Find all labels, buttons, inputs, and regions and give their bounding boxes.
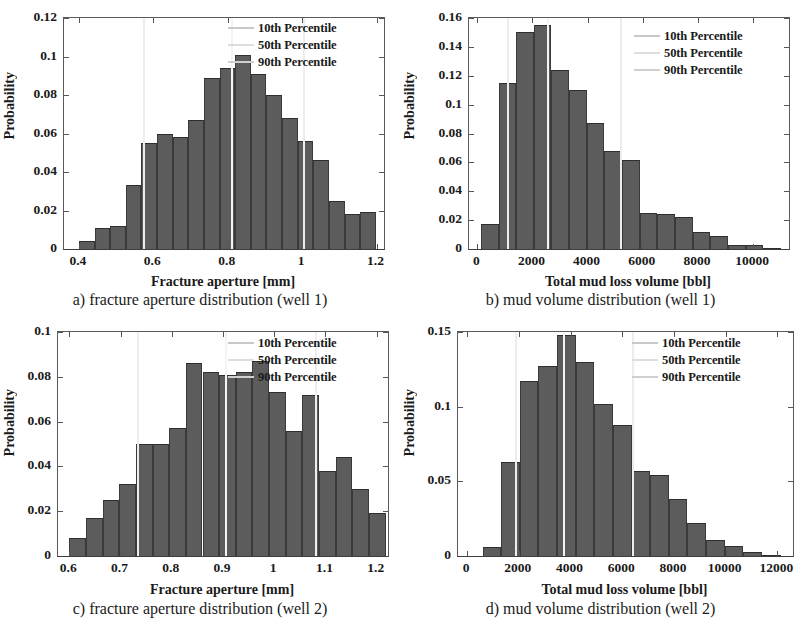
x-tick-label: 10000: [708, 560, 742, 576]
histogram-bar: [743, 552, 762, 556]
legend-line-icon: [632, 342, 658, 344]
histogram-bar: [219, 375, 236, 556]
y-tick-mark: [469, 18, 474, 19]
y-tick-label: 0.1: [0, 323, 51, 339]
histogram-bar: [352, 489, 369, 556]
histogram-bar: [360, 212, 376, 249]
histogram-bar: [622, 160, 640, 250]
panel-a-plot-area: [63, 17, 385, 250]
histogram-bar: [369, 513, 386, 556]
x-tick-mark-top: [121, 332, 122, 337]
x-tick-mark: [571, 551, 572, 556]
x-tick-mark: [753, 244, 754, 249]
x-tick-mark-top: [79, 18, 80, 23]
legend-label: 90th Percentile: [664, 63, 742, 78]
histogram-bar: [110, 226, 126, 249]
panel-a-caption: a) fracture aperture distribution (well …: [0, 291, 400, 309]
legend-line-icon: [634, 35, 660, 37]
percentile-line-overlay-10th: [507, 18, 509, 249]
y-tick-label: 0.08: [400, 125, 462, 141]
x-tick-mark: [377, 551, 378, 556]
y-tick-label: 0: [0, 547, 51, 563]
x-tick-mark: [325, 551, 326, 556]
figure-grid: Probability 00.020.040.060.080.10.12 0.4…: [0, 0, 801, 626]
y-tick-mark: [58, 556, 63, 557]
histogram-bar: [252, 361, 269, 556]
x-tick-mark: [121, 551, 122, 556]
x-tick-label: 2000: [518, 253, 545, 269]
y-tick-mark-right: [379, 249, 384, 250]
x-tick-mark-top: [519, 332, 520, 337]
x-tick-mark: [674, 551, 675, 556]
legend-label: 10th Percentile: [258, 336, 336, 351]
legend-item: 50th Percentile: [228, 352, 336, 368]
legend-label: 90th Percentile: [662, 370, 740, 385]
histogram-bar: [266, 95, 282, 249]
x-tick-label: 6000: [628, 253, 655, 269]
legend-label: 50th Percentile: [662, 353, 740, 368]
y-tick-mark-right: [379, 211, 384, 212]
histogram-bar: [520, 381, 539, 556]
percentile-line-overlay-50th: [225, 332, 227, 556]
legend-line-icon: [632, 376, 658, 378]
x-tick-label: 1: [298, 253, 305, 269]
histogram-bar: [613, 425, 632, 556]
legend-label: 10th Percentile: [258, 21, 336, 36]
histogram-bar: [594, 404, 613, 556]
y-tick-mark: [58, 422, 63, 423]
x-tick-label: 0.6: [144, 253, 161, 269]
y-tick-mark: [58, 466, 63, 467]
y-tick-mark-right: [788, 556, 793, 557]
x-tick-mark: [302, 244, 303, 249]
histogram-bar: [538, 366, 557, 556]
percentile-line-overlay-50th: [563, 332, 565, 556]
legend-item: 10th Percentile: [634, 28, 742, 44]
panel-b: Probability 00.020.040.060.080.10.120.14…: [400, 0, 801, 313]
panel-a-legend: 10th Percentile50th Percentile90th Perce…: [228, 20, 336, 70]
y-tick-mark-right: [784, 18, 789, 19]
y-tick-mark: [469, 134, 474, 135]
x-tick-mark-top: [571, 332, 572, 337]
x-tick-label: 0.6: [60, 560, 77, 576]
y-tick-label: 0.08: [0, 86, 57, 102]
histogram-bar: [313, 160, 329, 249]
y-tick-mark-right: [379, 18, 384, 19]
histogram-bar: [481, 224, 499, 249]
y-tick-mark: [469, 47, 474, 48]
legend-line-icon: [634, 69, 660, 71]
percentile-line-overlay-90th: [620, 18, 622, 249]
y-tick-mark: [58, 332, 63, 333]
y-tick-label: 0.02: [400, 211, 462, 227]
legend-line-icon: [228, 27, 254, 29]
x-tick-label: 1.2: [367, 253, 384, 269]
histogram-bar: [157, 134, 173, 250]
x-tick-label: 8000: [683, 253, 710, 269]
y-tick-mark-right: [383, 422, 388, 423]
panel-b-x-axis-label: Total mud loss volume [bbl]: [468, 274, 788, 290]
y-tick-mark: [458, 332, 463, 333]
x-tick-mark: [69, 551, 70, 556]
y-tick-label: 0.1: [0, 48, 57, 64]
legend-item: 50th Percentile: [632, 352, 740, 368]
x-tick-mark-top: [622, 332, 623, 337]
x-tick-mark: [622, 551, 623, 556]
y-tick-mark: [469, 249, 474, 250]
y-tick-label: 0.02: [0, 202, 57, 218]
legend-line-icon: [634, 52, 660, 54]
y-tick-mark: [64, 134, 69, 135]
histogram-bar: [69, 538, 86, 556]
x-tick-mark: [172, 551, 173, 556]
y-tick-mark: [64, 95, 69, 96]
panel-d-caption: d) mud volume distribution (well 2): [400, 600, 801, 618]
histogram-bar: [483, 547, 502, 556]
histogram-bar: [576, 362, 595, 556]
x-tick-label: 0: [473, 253, 480, 269]
histogram-bar: [298, 141, 314, 249]
legend-item: 90th Percentile: [228, 54, 336, 70]
histogram-bar: [153, 444, 170, 556]
x-tick-mark-top: [69, 332, 70, 337]
x-tick-mark-top: [467, 332, 468, 337]
y-tick-mark: [64, 211, 69, 212]
x-tick-label: 1: [270, 560, 277, 576]
y-tick-mark: [469, 191, 474, 192]
